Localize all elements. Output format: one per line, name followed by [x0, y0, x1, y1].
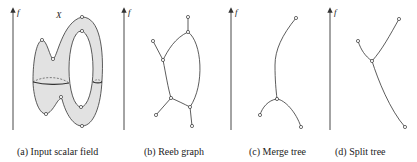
axis-label-f: f [235, 7, 239, 17]
panel-a-input-scalar-field: f X [13, 7, 102, 130]
surface-hole [69, 31, 93, 107]
panel-c-merge-tree: f [231, 7, 303, 130]
caption-c: (c) Merge tree [249, 146, 306, 157]
panel-b-reeb-graph: f [124, 7, 200, 130]
figure: f X f [0, 0, 417, 162]
axis-label-f: f [128, 7, 132, 17]
caption-a: (a) Input scalar field [17, 146, 98, 157]
panel-d-split-tree: f [330, 7, 407, 130]
caption-b: (b) Reeb graph [144, 146, 204, 157]
axis-label-f: f [17, 7, 21, 17]
caption-d: (d) Split tree [335, 146, 386, 157]
surface-label-x: X [55, 10, 62, 20]
axis-label-f: f [334, 7, 338, 17]
